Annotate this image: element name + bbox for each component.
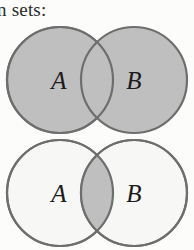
figure-page: n sets: A B A B [0,0,194,250]
intersection-label-a: A [49,180,67,207]
venn-diagram-intersection: A B [0,138,194,250]
union-label-a: A [49,67,67,94]
venn-diagram-union: A B [0,25,194,137]
union-label-b: B [126,67,141,94]
intersection-label-b: B [126,180,141,207]
caption-text-fragment: n sets: [0,0,117,21]
